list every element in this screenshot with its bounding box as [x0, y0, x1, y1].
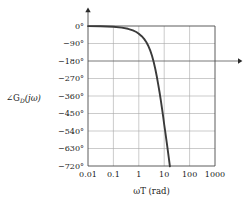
- x-tick-label-1000: 1000: [205, 170, 225, 179]
- y-tick-label--90: −90°: [63, 39, 84, 48]
- y-tick-label--630: −630°: [58, 144, 84, 153]
- chart-svg: 0° −90° −180° −270° −360° −450° −540° −6…: [0, 0, 246, 201]
- y-tick-label-0: 0°: [75, 22, 84, 31]
- y-tick-label--270: −270°: [58, 74, 84, 83]
- x-tick-label-100: 100: [182, 170, 197, 179]
- y-tick-label--540: −540°: [58, 127, 84, 136]
- x-tick-label-0.1: 0.1: [107, 170, 120, 179]
- y-tick-label--360: −360°: [58, 92, 84, 101]
- y-axis-title-tail: (jω): [25, 93, 41, 103]
- x-tick-label-1: 1: [136, 170, 141, 179]
- phase-bode-plot-figure: 0° −90° −180° −270° −360° −450° −540° −6…: [0, 0, 246, 201]
- y-tick-label--450: −450°: [58, 109, 84, 118]
- y-axis-title-main: ∠G: [6, 93, 20, 103]
- x-tick-label-0.01: 0.01: [79, 170, 97, 179]
- x-axis-title: ωT (rad): [133, 186, 170, 196]
- y-tick-label--180: −180°: [58, 57, 84, 66]
- x-tick-label-10: 10: [159, 170, 169, 179]
